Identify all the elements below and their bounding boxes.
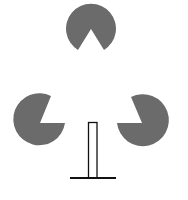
vertical-post <box>89 123 98 179</box>
kanizsa-figure <box>0 0 188 200</box>
